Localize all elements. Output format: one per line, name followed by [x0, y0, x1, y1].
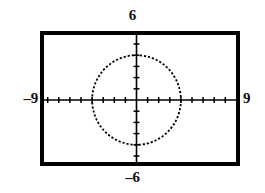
plot-canvas [0, 0, 265, 193]
graph-figure: 6 –9 9 –6 [0, 0, 265, 193]
